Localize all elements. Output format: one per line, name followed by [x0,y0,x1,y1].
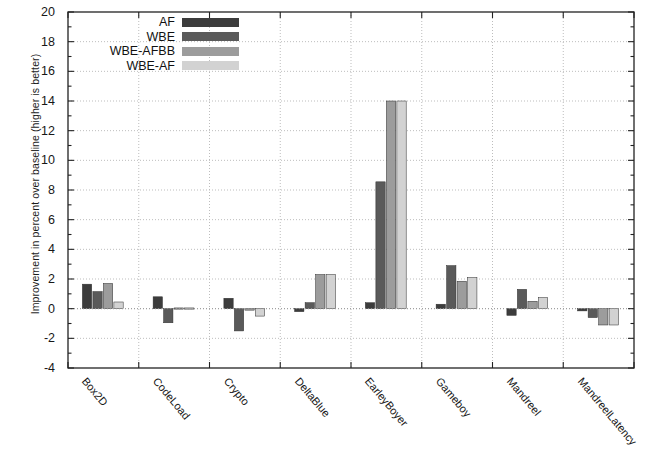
bar-crypto-wbe-afbb [245,309,254,310]
bar-gameboy-wbe [447,266,456,309]
y-tick-label: 0 [0,302,62,316]
bar-gameboy-wbe-af [468,278,477,309]
bar-gameboy-af [436,304,445,308]
bar-mandreellatency-wbe-afbb [599,309,608,325]
legend-label-wbe-afbb: WBE-AFBB [0,44,175,58]
bar-codeload-wbe [164,309,173,323]
legend-label-wbe-af: WBE-AF [0,59,175,73]
bar-box2d-wbe-afbb [103,283,112,308]
bar-box2d-af [82,284,91,308]
bar-mandreellatency-af [578,309,587,311]
bar-chart-figure: Improvement in percent over baseline (hi… [0,0,646,451]
bar-crypto-wbe-af [255,309,264,316]
bar-mandreel-wbe-af [538,298,547,309]
legend-swatch-wbe [182,32,239,41]
y-tick-label: 4 [0,242,62,256]
bar-earleyboyer-wbe-af [397,101,406,309]
y-tick-label: 2 [0,272,62,286]
bar-crypto-af [224,298,233,308]
bar-codeload-af [153,297,162,309]
bar-deltablue-wbe-afbb [316,275,325,309]
bar-mandreel-wbe-afbb [528,301,537,308]
bar-crypto-wbe [234,309,243,331]
y-tick-label: -2 [0,331,62,345]
bar-earleyboyer-wbe [376,182,385,309]
bar-earleyboyer-wbe-afbb [386,101,395,309]
bar-mandreellatency-wbe [588,309,597,318]
bar-gameboy-wbe-afbb [457,281,466,308]
bar-mandreel-wbe [517,289,526,308]
bar-mandreel-af [507,309,516,316]
y-tick-label: 10 [0,153,62,167]
y-tick-label: 8 [0,183,62,197]
legend-label-wbe: WBE [0,30,175,44]
bar-codeload-wbe-af [185,308,194,309]
bar-box2d-wbe [93,292,102,309]
legend-swatch-wbe-af [182,61,239,70]
y-tick-label: 14 [0,94,62,108]
legend-swatch-wbe-afbb [182,47,239,56]
bar-box2d-wbe-af [114,302,123,309]
y-tick-label: -4 [0,361,62,375]
bar-deltablue-wbe [305,303,314,309]
y-tick-label: 12 [0,124,62,138]
legend-label-af: AF [0,15,175,29]
bar-earleyboyer-af [365,303,374,309]
bar-mandreellatency-wbe-af [609,309,618,325]
legend-swatch-af [182,18,239,27]
y-tick-label: 6 [0,213,62,227]
bar-deltablue-wbe-af [326,275,335,309]
